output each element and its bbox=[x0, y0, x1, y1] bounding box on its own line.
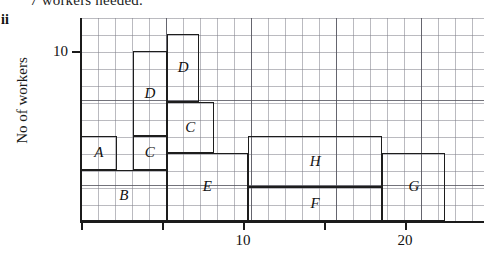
x-axis-tick bbox=[81, 222, 83, 230]
histogram-bar: D bbox=[167, 34, 199, 102]
x-axis-tick-label: 20 bbox=[398, 232, 413, 249]
y-axis-tick bbox=[72, 51, 81, 53]
histogram-bar: E bbox=[167, 153, 248, 221]
x-axis-tick bbox=[405, 222, 407, 230]
x-axis-tick bbox=[162, 222, 164, 230]
bar-label: E bbox=[168, 178, 247, 195]
histogram-bar: H bbox=[248, 136, 382, 187]
x-axis-tick-label: 10 bbox=[236, 232, 251, 249]
bar-label: C bbox=[168, 119, 213, 136]
bar-label: D bbox=[134, 85, 166, 102]
histogram-bar: F bbox=[248, 187, 382, 221]
y-axis-tick-label: 10 bbox=[53, 43, 68, 60]
histogram-bar: B bbox=[81, 170, 167, 221]
part-label: ii bbox=[1, 12, 9, 28]
bar-label: A bbox=[82, 144, 116, 161]
histogram-bar: C bbox=[167, 102, 214, 153]
bar-label: G bbox=[383, 178, 444, 195]
cut-off-header-text: 7 workers needed. bbox=[30, 0, 143, 9]
histogram-figure: 7 workers needed. ii No of workers ABCDC… bbox=[0, 0, 484, 259]
plot-area: ABCDCDEHFG bbox=[81, 18, 484, 222]
y-axis-line bbox=[80, 18, 82, 223]
bar-label: F bbox=[249, 195, 381, 212]
bar-label: B bbox=[82, 187, 166, 204]
bar-label: D bbox=[168, 59, 198, 76]
y-axis-title: No of workers bbox=[14, 41, 31, 161]
x-axis-tick bbox=[324, 222, 326, 230]
x-axis-tick bbox=[243, 222, 245, 230]
histogram-bar: G bbox=[382, 153, 445, 221]
histogram-bar: C bbox=[133, 136, 167, 170]
histogram-bar: A bbox=[81, 136, 117, 170]
x-axis-line bbox=[81, 221, 484, 223]
histogram-bar: D bbox=[133, 51, 167, 136]
bar-label: C bbox=[134, 144, 166, 161]
bar-label: H bbox=[249, 153, 381, 170]
